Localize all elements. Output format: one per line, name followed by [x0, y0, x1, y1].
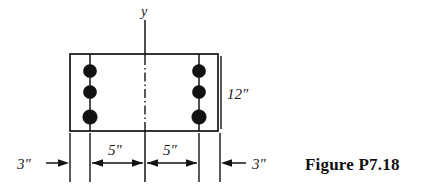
dimension-5in-right-group [147, 159, 197, 167]
bolt-right-top [192, 64, 205, 77]
bolt-right-middle [192, 85, 205, 98]
arrow-head-3in-left [58, 159, 69, 167]
bolt-left-bottom [83, 110, 98, 125]
dimension-label-3in-right: 3″ [251, 156, 267, 172]
arrow-head-3in-right [221, 159, 232, 167]
height-dimension-label: 12″ [227, 86, 249, 102]
dimension-label-3in-left: 3″ [16, 156, 32, 172]
bolt-column-left [83, 64, 98, 124]
arrow-head-5in-right-start [147, 159, 158, 167]
arrow-head-5in-right-end [186, 159, 197, 167]
bolt-column-right [192, 64, 207, 124]
figure-caption: Figure P7.18 [305, 155, 400, 174]
arrow-head-5in-left-start [92, 159, 103, 167]
figure-container: y 12″ 5″ 5″ 3″ 3″ Figure P7.18 [0, 0, 432, 194]
dimension-label-5in-left: 5″ [108, 142, 123, 158]
bolt-left-middle [83, 85, 96, 98]
bolt-right-bottom [192, 110, 207, 125]
bolt-left-top [83, 64, 96, 77]
dimension-3in-right-group [221, 159, 246, 167]
arrow-head-5in-left-end [132, 159, 143, 167]
dimension-5in-left-group [92, 159, 143, 167]
dimension-label-5in-right: 5″ [163, 142, 178, 158]
dimension-3in-left-group [46, 159, 69, 167]
engineering-diagram: y 12″ 5″ 5″ 3″ 3″ Figure P7.18 [0, 0, 432, 194]
y-axis-label: y [139, 4, 148, 19]
